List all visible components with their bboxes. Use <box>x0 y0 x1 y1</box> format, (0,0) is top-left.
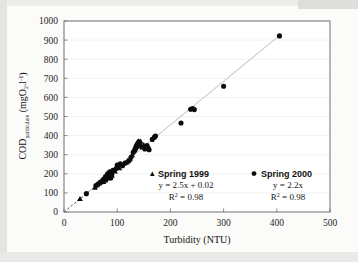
x-tick-label: 0 <box>62 218 67 228</box>
circle-marker-icon <box>252 171 257 176</box>
x-tick-label: 300 <box>216 218 231 228</box>
legend-label-spring-2000: Spring 2000 <box>261 169 312 179</box>
x-axis-tick-labels: 0100200300400500 <box>62 218 338 228</box>
data-point-circle <box>277 33 282 38</box>
legend-r2-spring-2000: R2 = 0.98 <box>271 192 306 202</box>
legend-equation-spring-1999: y = 2.5x + 0.02 <box>158 180 213 190</box>
data-point-circle <box>136 139 141 144</box>
y-tick-label: 600 <box>44 93 59 103</box>
figure-container: 01002003004005006007008009001000 0100200… <box>0 0 358 262</box>
data-point-circle <box>128 155 133 160</box>
y-tick-label: 700 <box>44 74 59 84</box>
scatter-plot: 01002003004005006007008009001000 0100200… <box>0 0 358 262</box>
data-point-circle <box>84 191 89 196</box>
legend-r2-spring-1999: R2 = 0.98 <box>169 192 204 202</box>
y-axis-title-unit-close: ) <box>17 72 29 75</box>
y-axis-title-unit-open: (mgO <box>17 89 29 115</box>
y-axis-title: CODparticulate (mgO2.l-1) <box>17 72 30 159</box>
legend-label-spring-1999: Spring 1999 <box>158 169 209 179</box>
legend-r2-value-2000: = 0.98 <box>280 192 306 202</box>
y-tick-label: 900 <box>44 36 59 46</box>
y-tick-label: 100 <box>44 188 59 198</box>
y-tick-label: 200 <box>44 169 59 179</box>
y-tick-label: 1000 <box>39 16 58 26</box>
y-axis-title-subscript: particulate <box>24 114 30 138</box>
y-tick-label: 300 <box>44 150 59 160</box>
y-tick-label: 0 <box>53 207 58 217</box>
legend-equation-spring-2000: y = 2.2x <box>273 180 303 190</box>
y-axis-title-main: COD <box>17 138 28 159</box>
x-tick-label: 200 <box>163 218 178 228</box>
x-axis-title: Turbidity (NTU) <box>163 234 230 246</box>
svg-text:CODparticulate (mgO2.l-1): CODparticulate (mgO2.l-1) <box>17 72 30 159</box>
x-tick-label: 400 <box>270 218 285 228</box>
x-tick-label: 100 <box>110 218 125 228</box>
y-tick-label: 400 <box>44 131 59 141</box>
y-tick-label: 800 <box>44 55 59 65</box>
data-point-circle <box>192 107 197 112</box>
data-point-circle <box>147 147 152 152</box>
data-point-circle <box>153 133 158 138</box>
legend-r2-value-1999: = 0.98 <box>178 192 204 202</box>
data-point-circle <box>221 84 226 89</box>
x-tick-label: 500 <box>323 218 338 228</box>
y-axis-tick-labels: 01002003004005006007008009001000 <box>39 16 58 217</box>
data-point-circle <box>178 120 183 125</box>
y-tick-label: 500 <box>44 112 59 122</box>
